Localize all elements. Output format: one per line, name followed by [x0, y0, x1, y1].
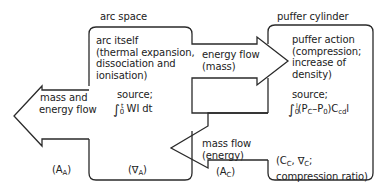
outflow-label-line: mass and: [39, 92, 97, 104]
energy-flow-label-line: (mass): [202, 61, 260, 73]
energy-flow-label: energy flow (mass): [202, 49, 260, 72]
integrand: WI dt: [127, 103, 153, 114]
label-main: (A: [216, 166, 227, 177]
integrand-part: (P: [298, 103, 308, 114]
arc-space-title: arc space: [100, 11, 147, 23]
integral-sign-icon: ∫: [288, 102, 295, 117]
arc-desc-line: ionisation): [96, 70, 195, 82]
puffer-source-formula: ∫0l(PC–P0)Ccdl: [288, 101, 349, 119]
puffer-source-label: source;: [292, 89, 328, 101]
arc-desc-line: dissociation and: [96, 58, 195, 70]
mass-flow-area-label: (AC): [216, 166, 235, 182]
puffer-desc-line: (compression;: [292, 46, 361, 58]
outflow-area-label: (AA): [52, 164, 71, 180]
integrand-part: –P: [312, 103, 323, 114]
puffer-params-line1: (CC, ∇C;: [276, 155, 368, 171]
puffer-params-line2: compression ratio): [276, 171, 368, 183]
arc-volume-label: (∇A): [128, 164, 147, 180]
puffer-desc-line: puffer action: [292, 34, 361, 46]
label-close: ): [143, 164, 147, 175]
mass-flow-label-line: mass flow: [202, 138, 251, 150]
puffer-description: puffer action (compression; increase of …: [292, 34, 361, 80]
param-part: (C: [276, 155, 287, 166]
energy-flow-label-line: energy flow: [202, 49, 260, 61]
puffer-params-label: (CC, ∇C; compression ratio): [276, 155, 368, 182]
label-close: ): [67, 164, 71, 175]
puffer-desc-line: density): [292, 69, 361, 81]
param-part: ;: [309, 155, 312, 166]
param-part: , ∇: [291, 155, 304, 166]
arc-source-label: source;: [117, 89, 153, 101]
integrand-part: )C: [328, 103, 339, 114]
integrand-part: l: [346, 103, 349, 114]
puffer-desc-line: increase of: [292, 57, 361, 69]
arc-source-formula: ∫0t WI dt: [113, 101, 152, 119]
puffer-cylinder-title: puffer cylinder: [277, 11, 349, 23]
label-close: ): [231, 166, 235, 177]
label-main: (∇: [128, 164, 138, 175]
mass-flow-label-line: (energy): [202, 150, 251, 162]
mass-flow-label: mass flow (energy): [202, 138, 251, 161]
arc-space-description: arc itself (thermal expansion, dissociat…: [96, 35, 195, 81]
integral-upper: t: [121, 102, 123, 110]
outflow-label: mass and energy flow: [39, 92, 97, 115]
integral-sign-icon: ∫: [113, 102, 120, 117]
label-main: (A: [52, 164, 63, 175]
arc-desc-line: arc itself: [96, 35, 195, 47]
arc-desc-line: (thermal expansion,: [96, 47, 195, 59]
outflow-label-line: energy flow: [39, 104, 97, 116]
